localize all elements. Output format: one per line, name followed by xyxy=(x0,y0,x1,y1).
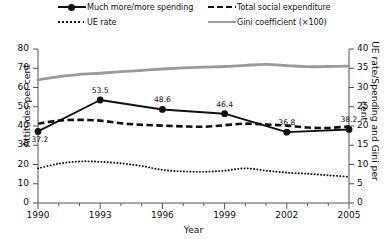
series-ue-rate xyxy=(38,161,349,177)
x-axis-ticks xyxy=(38,203,349,209)
x-axis-tick-label: 2005 xyxy=(329,210,369,220)
x-axis-tick-label: 2002 xyxy=(267,210,307,220)
data-point-label: 46.4 xyxy=(210,100,240,109)
x-axis-tick-label: 1993 xyxy=(80,210,120,220)
y-axis-right-tick-label: 0 xyxy=(357,197,379,207)
data-point-label: 48.6 xyxy=(147,95,177,104)
series-gini-coefficient xyxy=(38,64,349,79)
axis-lines xyxy=(38,49,349,203)
x-axis-tick-label: 1999 xyxy=(205,210,245,220)
y-axis-left-ticks xyxy=(33,49,38,203)
series-much-more-spending xyxy=(35,97,353,136)
x-axis-tick-label: 1990 xyxy=(18,210,58,220)
y-axis-left-tick-label: 0 xyxy=(7,197,29,207)
plot-canvas xyxy=(0,0,389,239)
data-point-label: 36.8 xyxy=(272,118,302,127)
x-axis-tick-label: 1996 xyxy=(142,210,182,220)
y-axis-right-title: UE rate/Spending and Gini per cent xyxy=(359,36,381,186)
data-point-label: 53.5 xyxy=(85,86,115,95)
y-axis-left-title: Attitudes per cent xyxy=(21,31,32,181)
y-axis-right-ticks xyxy=(349,49,354,203)
x-axis-title: Year xyxy=(38,224,349,235)
series-total-social-expenditure xyxy=(38,120,349,128)
chart-figure: Much more/more spending Total social exp… xyxy=(0,0,389,239)
